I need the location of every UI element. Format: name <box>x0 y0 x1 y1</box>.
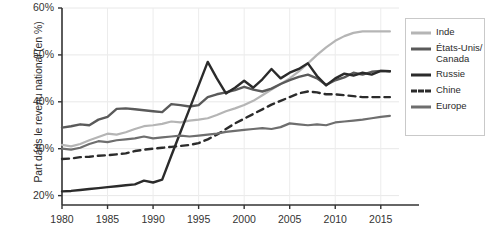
legend-swatch-icon <box>411 101 431 112</box>
legend-item-label: États-Unis/ Canada <box>436 42 482 64</box>
legend-swatch-icon <box>411 69 431 80</box>
x-axis-tick-label: 2000 <box>224 213 264 225</box>
legend-item[interactable]: Europe <box>411 100 484 112</box>
series-line-4 <box>62 116 390 150</box>
legend-swatch-icon <box>411 85 431 96</box>
series-line-1 <box>62 71 390 128</box>
legend-item[interactable]: Inde <box>411 26 484 38</box>
legend-item-label: Chine <box>436 84 461 95</box>
x-axis-tick-label: 2005 <box>270 213 310 225</box>
y-axis-tick-label: 40% <box>20 95 54 107</box>
y-axis-tick-label: 30% <box>20 142 54 154</box>
legend-swatch-icon <box>411 27 431 38</box>
x-axis-tick-label: 1995 <box>179 213 219 225</box>
y-axis-tick-label: 20% <box>20 189 54 201</box>
y-axis-tick-label: 50% <box>20 48 54 60</box>
legend-item[interactable]: Russie <box>411 68 484 80</box>
y-axis-tick-label: 60% <box>20 1 54 13</box>
legend-swatch-icon <box>411 43 431 54</box>
legend-item[interactable]: Chine <box>411 84 484 96</box>
x-axis-tick-label: 1990 <box>133 213 173 225</box>
x-axis-tick-label: 2010 <box>315 213 355 225</box>
legend-item-label: Inde <box>436 26 455 37</box>
x-axis-tick-label: 2015 <box>361 213 401 225</box>
x-axis-tick-label: 1985 <box>88 213 128 225</box>
chart-legend: IndeÉtats-Unis/ CanadaRussieChineEurope <box>405 18 485 136</box>
x-axis-tick-label: 1980 <box>42 213 82 225</box>
series-line-2 <box>62 62 390 191</box>
chart-container: Part dans le revenu national (en %) Inde… <box>0 0 487 243</box>
legend-item-label: Europe <box>436 100 467 111</box>
legend-item-label: Russie <box>436 68 465 79</box>
legend-item[interactable]: États-Unis/ Canada <box>411 42 484 64</box>
